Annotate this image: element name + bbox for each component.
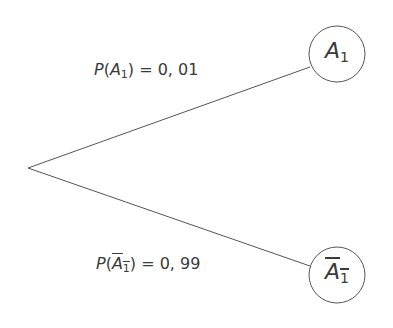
complement-overline: A1 bbox=[112, 254, 130, 273]
prob-value: ) = 0, 01 bbox=[128, 60, 199, 79]
prob-p-symbol: P bbox=[96, 254, 106, 273]
branch-line-not-a1 bbox=[28, 168, 310, 266]
node-event-subscript: 1 bbox=[340, 49, 349, 65]
node-complement-overline: A1 bbox=[325, 259, 349, 284]
event-letter: A bbox=[110, 60, 121, 79]
event-subscript: 1 bbox=[123, 262, 130, 275]
probability-label-a1: P(A1) = 0, 01 bbox=[94, 60, 198, 81]
node-event-subscript: 1 bbox=[340, 270, 349, 286]
branch-line-a1 bbox=[28, 67, 310, 168]
node-event-letter: A bbox=[325, 259, 340, 284]
prob-p-symbol: P bbox=[94, 60, 104, 79]
node-label-a1: A1 bbox=[307, 38, 367, 65]
event-letter: A bbox=[112, 254, 123, 273]
node-label-not-a1: A1 bbox=[307, 259, 367, 286]
node-event-letter: A bbox=[325, 38, 340, 63]
probability-label-not-a1: P(A1) = 0, 99 bbox=[96, 254, 200, 275]
event-subscript: 1 bbox=[121, 68, 128, 81]
prob-value: ) = 0, 99 bbox=[130, 254, 201, 273]
